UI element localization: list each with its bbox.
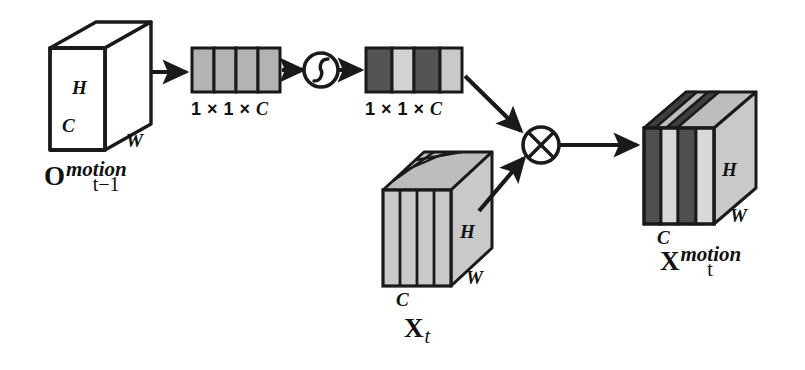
output-slab-caption-base: X xyxy=(660,246,680,276)
input-cube-w-label: W xyxy=(126,131,143,150)
input-cube-caption-base: O xyxy=(44,161,65,191)
arrow-attention-to-multiply xyxy=(465,76,521,131)
feature-slab-caption-base: X xyxy=(404,313,424,343)
channel-attention-weight-vector xyxy=(366,48,462,92)
feature-slab-caption: Xt xyxy=(404,315,430,342)
input-feature-slab xyxy=(383,152,492,286)
descriptor-vector-caption-prefix: 1 × 1 × xyxy=(191,99,256,119)
attention-vector-caption-var: C xyxy=(430,99,443,119)
elementwise-multiply-node xyxy=(523,127,559,163)
feature-slab-h-label: H xyxy=(460,222,475,241)
sigmoid-activation-node xyxy=(304,53,338,87)
feature-slab-caption-subscript: t xyxy=(425,325,431,347)
feature-slab-w-label: W xyxy=(466,268,483,287)
attention-vector-caption-prefix: 1 × 1 × xyxy=(365,99,430,119)
output-slab-w-label: W xyxy=(730,206,747,225)
attention-vector-caption: 1 × 1 × C xyxy=(365,100,443,118)
pooled-descriptor-vector xyxy=(192,48,280,92)
descriptor-vector-caption-var: C xyxy=(256,99,269,119)
input-cube-h-label: H xyxy=(72,78,87,97)
output-slab-caption-subscript: t xyxy=(707,258,713,280)
diagram-canvas: H C W Omotiont−1 1 × 1 × C 1 × 1 × C H W… xyxy=(0,0,805,370)
output-slab-caption: Xmotiont xyxy=(660,248,713,275)
output-slab-c-label: C xyxy=(657,228,670,247)
feature-slab-c-label: C xyxy=(396,290,409,309)
input-cube-caption-subscript: t−1 xyxy=(93,173,120,195)
diagram-vector-layer xyxy=(0,0,805,370)
output-slab-h-label: H xyxy=(722,160,737,179)
input-cube-caption: Omotiont−1 xyxy=(44,163,120,190)
input-cube-c-label: C xyxy=(62,116,75,135)
descriptor-vector-caption: 1 × 1 × C xyxy=(191,100,269,118)
